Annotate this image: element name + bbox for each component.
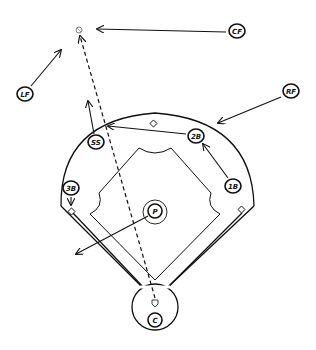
- svg-text:2B: 2B: [191, 133, 201, 141]
- baseball-field-diagram: CF LF RF SS 2B 1B 3B P C: [0, 0, 316, 350]
- 2b-arrow: [108, 126, 186, 134]
- player-3b: 3B: [63, 181, 79, 195]
- player-c: C: [148, 313, 162, 327]
- cf-arrow: [97, 29, 226, 32]
- player-rf: RF: [283, 84, 299, 98]
- player-lf: LF: [17, 87, 33, 101]
- svg-text:LF: LF: [20, 91, 29, 99]
- second-base: [150, 120, 157, 127]
- movement-arrows: [31, 29, 281, 254]
- svg-text:1B: 1B: [228, 183, 238, 191]
- bases: [68, 120, 245, 215]
- player-ss: SS: [88, 135, 104, 149]
- svg-text:3B: 3B: [66, 185, 76, 193]
- svg-text:RF: RF: [286, 88, 296, 96]
- 1b-arrow: [203, 144, 228, 178]
- player-p: P: [148, 204, 162, 218]
- svg-text:C: C: [152, 317, 158, 325]
- svg-text:CF: CF: [232, 28, 242, 36]
- player-cf: CF: [229, 24, 245, 38]
- ball-path: [80, 36, 155, 298]
- first-base: [238, 206, 245, 213]
- player-2b: 2B: [188, 129, 204, 143]
- svg-text:SS: SS: [91, 139, 101, 147]
- rf-arrow: [218, 97, 281, 123]
- ss-arrow: [88, 101, 94, 134]
- svg-text:P: P: [152, 208, 158, 216]
- lf-arrow: [31, 50, 61, 86]
- player-1b: 1B: [225, 179, 241, 193]
- ball-icon: [76, 27, 82, 33]
